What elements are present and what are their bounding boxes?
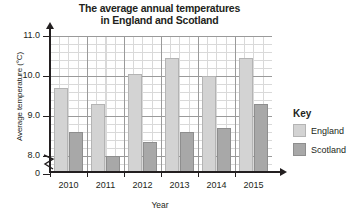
bar-scotland-2010	[69, 132, 83, 172]
y-tick-10.0	[43, 76, 51, 77]
x-tick-label-2013: 2013	[160, 180, 200, 190]
y-axis-line	[49, 28, 51, 172]
x-tick-label-2011: 2011	[86, 180, 126, 190]
x-tick-label-2010: 2010	[49, 180, 89, 190]
y-axis-title: Average temperature (°C)	[15, 22, 24, 172]
bar-england-2015	[239, 58, 253, 172]
legend-title: Key	[293, 108, 346, 119]
legend: Key England Scotland	[293, 108, 346, 162]
y-tick-label-11.0: 11.0	[6, 30, 40, 40]
chart-title-line-1: The average annual temperatures	[79, 2, 240, 14]
x-tick-2014	[198, 171, 199, 177]
x-tick-2013	[161, 171, 162, 177]
x-tick-2012	[124, 171, 125, 177]
bar-england-2013	[165, 58, 179, 172]
legend-swatch-england	[293, 124, 306, 137]
bar-scotland-2012	[143, 142, 157, 172]
x-tick-label-2014: 2014	[197, 180, 237, 190]
bar-england-2012	[128, 74, 142, 172]
x-tick-label-2015: 2015	[234, 180, 274, 190]
x-axis-line	[49, 171, 282, 173]
x-tick-2010	[50, 171, 51, 177]
legend-item-scotland: Scotland	[293, 143, 346, 156]
x-tick-2011	[87, 171, 88, 177]
y-tick-8.0	[43, 156, 51, 157]
bar-scotland-2011	[106, 156, 120, 172]
y-tick-9.0	[43, 116, 51, 117]
y-tick-label-0: 0	[6, 168, 40, 178]
y-tick-label-10.0: 10.0	[6, 70, 40, 80]
chart-title: The average annual temperatures in Engla…	[52, 2, 267, 26]
x-axis-arrow-icon	[280, 168, 287, 176]
bar-england-2010	[54, 88, 68, 172]
y-tick-label-8.0: 8.0	[6, 150, 40, 160]
bar-england-2011	[91, 104, 105, 172]
bar-scotland-2015	[254, 104, 268, 172]
legend-label-england: England	[311, 126, 344, 136]
chart-title-line-2: in England and Scotland	[101, 14, 219, 26]
bar-england-2014	[202, 76, 216, 172]
y-axis-arrow-icon	[46, 22, 54, 29]
legend-item-england: England	[293, 124, 346, 137]
x-tick-2015	[235, 171, 236, 177]
x-axis-title: Year	[110, 200, 210, 210]
plot-area	[50, 36, 272, 172]
x-tick-label-2012: 2012	[123, 180, 163, 190]
legend-swatch-scotland	[293, 143, 306, 156]
legend-label-scotland: Scotland	[311, 145, 346, 155]
y-tick-label-9.0: 9.0	[6, 110, 40, 120]
bar-scotland-2014	[217, 128, 231, 172]
bar-chart: The average annual temperatures in Engla…	[0, 0, 349, 222]
y-tick-11.0	[43, 36, 51, 37]
bar-scotland-2013	[180, 132, 194, 172]
